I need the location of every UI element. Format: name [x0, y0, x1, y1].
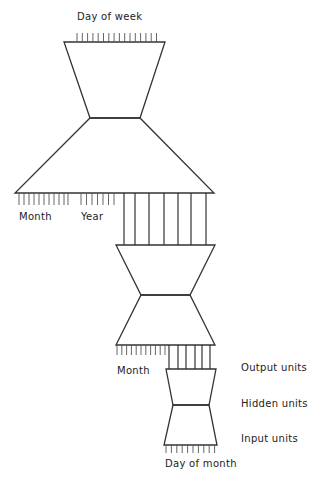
hidden-units-label: Hidden units [241, 398, 308, 409]
output-units-label: Output units [241, 362, 307, 373]
mid-output-trapezoid [116, 245, 215, 295]
diagram-lines [0, 0, 329, 487]
top-output-trapezoid [64, 42, 165, 118]
bottom-output-trapezoid [166, 369, 216, 405]
day-of-month-label: Day of month [165, 458, 237, 469]
input-units-label: Input units [241, 433, 298, 444]
month-mid-label: Month [117, 365, 150, 376]
year-label: Year [81, 211, 103, 222]
month-top-label: Month [19, 211, 52, 222]
network-diagram: Day of week Month Year Month Output unit… [0, 0, 329, 487]
bottom-input-trapezoid [164, 405, 217, 445]
mid-input-trapezoid [116, 295, 215, 345]
day-of-week-label: Day of week [77, 11, 142, 22]
top-input-trapezoid [15, 118, 214, 193]
